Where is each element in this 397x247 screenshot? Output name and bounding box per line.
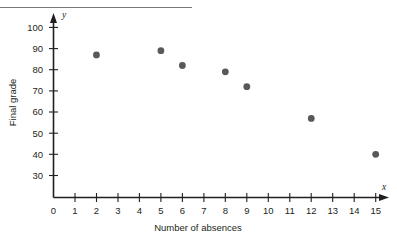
scatter-plot-figure: 100 90 80 70 60 50 40 30 0 1 2 3 4 5 6 7… [0,0,397,247]
y-axis [50,13,57,198]
data-point [308,115,315,122]
x-tick-label: 9 [239,205,255,216]
x-tick-label: 3 [110,205,126,216]
x-axis-variable-name: x [382,182,386,192]
data-point [372,151,379,158]
data-point [222,68,229,75]
x-tick-label: 1 [67,205,83,216]
x-tick-label: 7 [196,205,212,216]
y-tick-label: 80 [21,64,43,75]
x-tick-label: 2 [89,205,105,216]
x-tick-label: 11 [282,205,298,216]
x-tick-label: 6 [174,205,190,216]
y-tick-label: 40 [21,149,43,160]
data-point [243,83,250,90]
x-axis [54,194,390,201]
y-axis-title: Final grade [7,67,18,139]
x-tick-label: 10 [260,205,276,216]
y-tick-label: 90 [21,43,43,54]
x-tick-label: 8 [217,205,233,216]
y-tick-label: 50 [21,128,43,139]
data-point [93,52,100,59]
y-axis-variable-name: y [62,10,66,20]
y-tick-label: 100 [21,22,43,33]
x-tick-label: 12 [303,205,319,216]
x-tick-label: 5 [153,205,169,216]
y-tick-label: 30 [21,170,43,181]
y-tick-label: 60 [21,106,43,117]
data-point [179,62,186,69]
x-tick-label: 13 [325,205,341,216]
x-tick-label: 0 [46,205,62,216]
data-point [158,47,165,54]
y-tick-label: 70 [21,85,43,96]
x-tick-label: 14 [346,205,362,216]
x-tick-label: 15 [368,205,384,216]
x-axis-title: Number of absences [118,222,278,233]
data-point-group [93,47,379,157]
x-tick-label: 4 [131,205,147,216]
